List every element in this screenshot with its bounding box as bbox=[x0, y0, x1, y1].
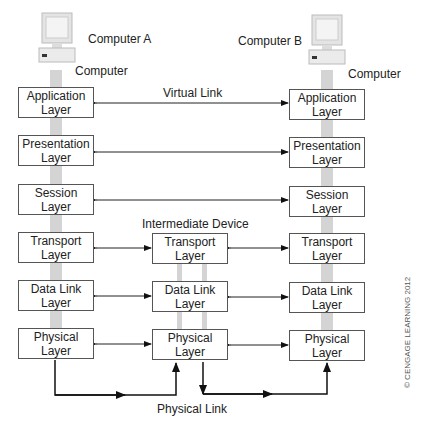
right-transport-layer: TransportLayer bbox=[289, 233, 365, 264]
middle-physical-layer: PhysicalLayer bbox=[152, 329, 228, 360]
virtual-link-label: Virtual Link bbox=[163, 86, 222, 100]
copyright-notice: © CENGAGE LEARNING 2012 bbox=[403, 277, 412, 388]
intermediate-device-label: Intermediate Device bbox=[142, 217, 249, 231]
left-application-layer: ApplicationLayer bbox=[18, 87, 94, 118]
right-session-layer: SessionLayer bbox=[289, 186, 365, 217]
left-data-link-layer: Data LinkLayer bbox=[18, 280, 94, 311]
right-physical-layer: PhysicalLayer bbox=[289, 330, 365, 361]
middle-data-link-layer: Data LinkLayer bbox=[152, 281, 228, 312]
right-presentation-layer: PresentationLayer bbox=[289, 137, 365, 168]
left-physical-layer: PhysicalLayer bbox=[18, 328, 94, 359]
left-session-layer: SessionLayer bbox=[18, 184, 94, 215]
right-application-layer: ApplicationLayer bbox=[289, 89, 365, 120]
left-presentation-layer: PresentationLayer bbox=[18, 135, 94, 166]
middle-transport-layer: TransportLayer bbox=[152, 233, 228, 264]
left-transport-layer: TransportLayer bbox=[18, 232, 94, 263]
physical-link-label: Physical Link bbox=[157, 402, 227, 416]
right-data-link-layer: Data LinkLayer bbox=[289, 282, 365, 313]
